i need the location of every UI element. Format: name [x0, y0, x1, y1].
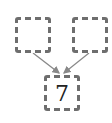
bottom-value: 7 [55, 81, 69, 106]
arrow-right-to-bottom [64, 53, 89, 73]
top-left-box [15, 17, 51, 53]
top-right-box [72, 17, 108, 53]
bottom-box: 7 [44, 75, 80, 111]
arrow-left-to-bottom [33, 53, 59, 73]
